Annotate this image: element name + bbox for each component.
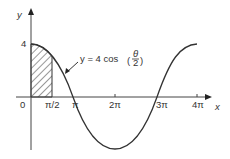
equation-denominator: 2 — [133, 57, 138, 68]
x-axis-label: x — [214, 101, 221, 112]
x-tick-4pi: 4π — [192, 99, 204, 110]
x-tick-pi-2: π/2 — [45, 99, 59, 110]
cosine-chart: y x 0 4 π/2 π 2π 3π 4π y = 4 cos ( θ 2 ) — [0, 0, 230, 159]
x-tick-pi: π — [72, 99, 79, 110]
x-axis-arrow-icon — [205, 94, 212, 100]
paren-left: ( — [127, 55, 131, 66]
x-tick-3pi: 3π — [156, 99, 168, 110]
y-axis-arrow-icon — [28, 8, 34, 15]
pointer-arrow-icon — [65, 68, 70, 74]
origin-label: 0 — [20, 99, 25, 110]
paren-right: ) — [140, 55, 143, 66]
y-tick-4: 4 — [21, 38, 26, 49]
x-tick-2pi: 2π — [109, 99, 121, 110]
equation-label: y = 4 cos — [80, 53, 119, 64]
y-axis-label: y — [16, 9, 23, 20]
